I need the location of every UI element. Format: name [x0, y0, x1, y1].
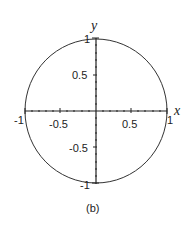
- y-tick-label: -0.5: [69, 142, 88, 154]
- y-axis-label: y: [89, 18, 98, 33]
- y-tick-label: 1: [84, 33, 90, 45]
- x-tick-label: -1: [14, 114, 24, 126]
- x-tick-label: 0.5: [122, 118, 137, 130]
- x-axis-label: x: [173, 103, 181, 118]
- y-tick-label: -1: [80, 179, 90, 191]
- unit-circle-plot: y x -1 -0.5 0.5 1 1 0.5 -0.5 -1 (b): [0, 0, 188, 230]
- figure-caption: (b): [86, 202, 99, 214]
- y-tick-label: 0.5: [72, 69, 87, 81]
- x-tick-label: 1: [167, 114, 173, 126]
- x-tick-label: -0.5: [49, 118, 68, 130]
